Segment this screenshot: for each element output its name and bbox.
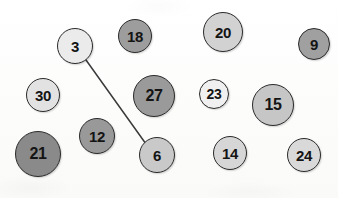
graph-node-label: 30 — [35, 88, 51, 103]
graph-node-label: 12 — [89, 129, 105, 144]
graph-node-label: 20 — [215, 25, 231, 40]
graph-node-3[interactable]: 3 — [57, 28, 93, 64]
graph-node-18[interactable]: 18 — [118, 19, 152, 53]
graph-node-label: 21 — [30, 146, 47, 162]
graph-node-30[interactable]: 30 — [26, 78, 60, 112]
graph-node-15[interactable]: 15 — [252, 84, 294, 126]
graph-node-24[interactable]: 24 — [287, 138, 321, 172]
graph-node-label: 3 — [71, 39, 79, 54]
graph-node-label: 24 — [296, 148, 312, 163]
graph-node-label: 9 — [310, 37, 318, 52]
graph-node-label: 15 — [265, 97, 282, 113]
graph-node-9[interactable]: 9 — [298, 28, 330, 60]
graph-node-23[interactable]: 23 — [199, 79, 229, 109]
graph-node-12[interactable]: 12 — [79, 118, 115, 154]
graph-node-20[interactable]: 20 — [203, 12, 243, 52]
graph-node-label: 6 — [153, 148, 161, 163]
graph-node-27[interactable]: 27 — [133, 75, 175, 117]
graph-node-label: 18 — [127, 29, 143, 44]
graph-node-label: 27 — [146, 88, 163, 104]
graph-node-21[interactable]: 21 — [15, 131, 61, 177]
graph-node-label: 14 — [222, 146, 238, 161]
graph-diagram-canvas: 31820930272315122161424 — [0, 0, 338, 198]
graph-node-6[interactable]: 6 — [139, 137, 175, 173]
graph-node-14[interactable]: 14 — [213, 136, 247, 170]
graph-node-label: 23 — [207, 87, 222, 101]
